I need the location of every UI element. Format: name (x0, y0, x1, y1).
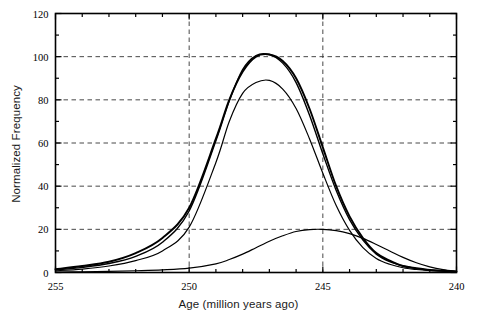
x-tick-label: 255 (48, 281, 64, 292)
y-tick-label: 80 (38, 95, 49, 106)
y-tick-label: 120 (33, 9, 49, 20)
y-tick-label: 40 (38, 181, 49, 192)
gridlines (56, 14, 457, 273)
x-axis-title: Age (million years ago) (0, 298, 477, 310)
x-tick-label: 240 (449, 281, 465, 292)
figure-container: 020406080100120255250245240 Age (million… (0, 0, 477, 332)
y-tick-label: 20 (38, 224, 49, 235)
series-line-curve-1 (56, 54, 457, 271)
figure-caption-strip (0, 323, 477, 332)
x-tick-label: 245 (315, 281, 331, 292)
series-line-curve-4 (56, 229, 457, 272)
y-axis-title: Normalized Frequency (10, 54, 22, 234)
series-line-curve-3 (56, 80, 457, 272)
y-tick-label: 0 (43, 268, 48, 279)
y-tick-label: 100 (33, 52, 49, 63)
data-series-group (56, 54, 457, 272)
normalized-frequency-line-chart: 020406080100120255250245240 (0, 0, 477, 332)
x-tick-label: 250 (181, 281, 197, 292)
series-line-curve-2 (56, 54, 457, 272)
tick-labels: 020406080100120255250245240 (33, 9, 465, 292)
y-tick-label: 60 (38, 138, 49, 149)
